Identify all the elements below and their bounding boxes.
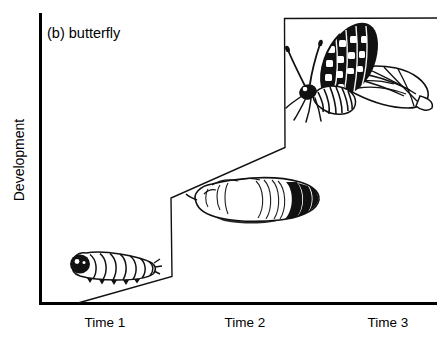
- panel-title: (b) butterfly: [47, 25, 121, 41]
- caterpillar-head: [70, 255, 90, 274]
- x-tick-label-time-3: Time 3: [368, 315, 409, 330]
- x-tick-label-time-1: Time 1: [85, 315, 126, 330]
- figure-canvas: (b) butterfly Development Time 1 Time 2 …: [0, 0, 439, 340]
- caterpillar-eye-secondary: [83, 261, 86, 264]
- butterfly-development-figure: (b) butterfly Development Time 1 Time 2 …: [0, 0, 439, 340]
- caterpillar-eye: [75, 259, 80, 264]
- y-axis-title: Development: [11, 119, 27, 202]
- x-tick-label-time-2: Time 2: [225, 315, 266, 330]
- butterfly-eye: [303, 87, 308, 92]
